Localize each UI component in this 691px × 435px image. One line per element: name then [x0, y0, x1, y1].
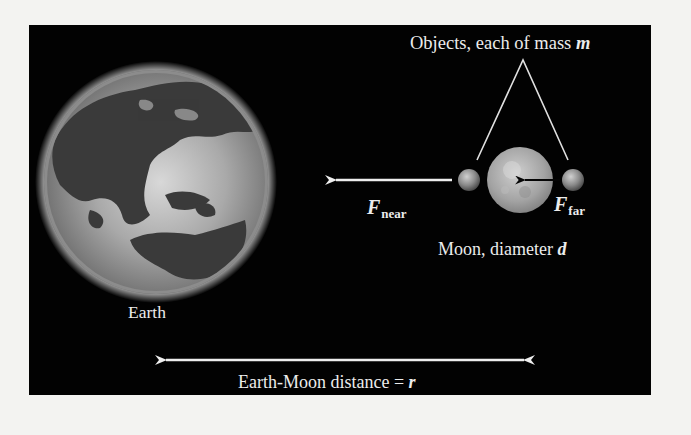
force-near-subscript: near	[381, 206, 406, 221]
earth-label: Earth	[128, 302, 166, 323]
far-object-sphere	[562, 169, 584, 191]
objects-pointer-lines	[477, 60, 568, 160]
force-far-subscript: far	[568, 203, 585, 218]
mass-symbol: m	[576, 33, 590, 53]
distance-label-text: Earth-Moon distance =	[238, 372, 409, 392]
objects-mass-label: Objects, each of mass m	[410, 33, 590, 54]
objects-label-text: Objects, each of mass	[410, 33, 576, 53]
moon-label-text: Moon, diameter	[438, 239, 557, 259]
near-object-sphere	[458, 169, 480, 191]
moon-label: Moon, diameter d	[438, 239, 566, 260]
distance-label: Earth-Moon distance = r	[238, 372, 416, 393]
force-far-label: Ffar	[554, 193, 585, 216]
diagram-graphics	[0, 0, 691, 435]
distance-symbol: r	[409, 372, 416, 392]
earth-globe	[35, 61, 277, 303]
force-far-symbol: F	[554, 193, 567, 215]
force-near-symbol: F	[367, 196, 380, 218]
diameter-symbol: d	[557, 239, 566, 259]
force-near-label: Fnear	[367, 196, 407, 219]
